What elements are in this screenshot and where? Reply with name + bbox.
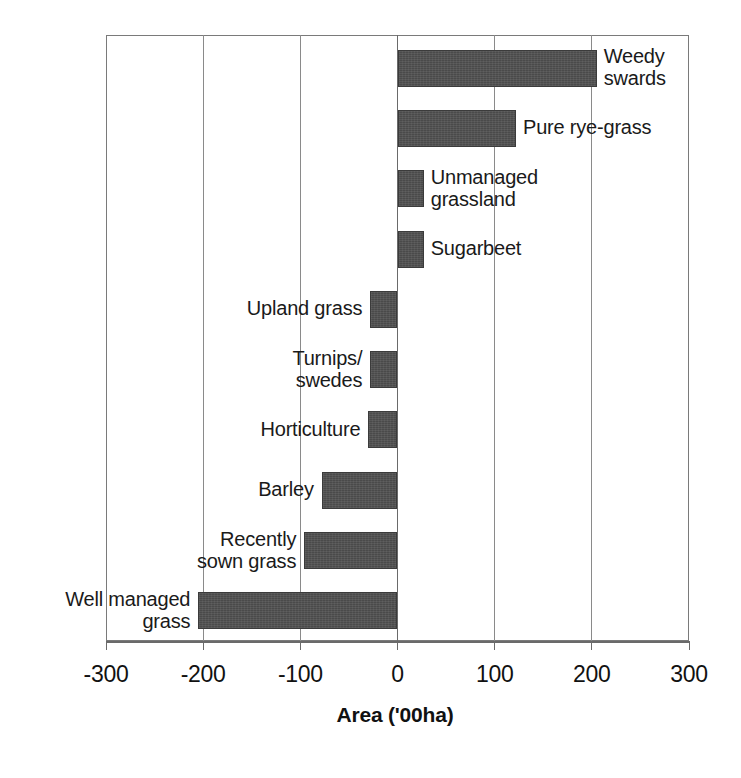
x-tick (397, 641, 398, 650)
bar (370, 351, 397, 388)
x-tick (300, 641, 301, 650)
bar-label: Upland grass (0, 297, 362, 319)
x-tick-label: 200 (547, 663, 637, 686)
x-tick-label: -300 (61, 663, 151, 686)
bar-label: Barley (0, 478, 314, 500)
bar-label: Weedy swards (604, 45, 741, 89)
x-axis-title: Area ('00ha) (195, 703, 595, 727)
bar-chart: Weedy swardsPure rye-grassUnmanaged gras… (0, 0, 741, 778)
bar-label: Pure rye-grass (523, 116, 741, 138)
bar-label: Unmanaged grassland (431, 166, 691, 210)
x-tick (494, 641, 495, 650)
bar-label: Horticulture (0, 418, 360, 440)
bar-label: Well managed grass (0, 588, 190, 632)
x-tick-label: -100 (255, 663, 345, 686)
bar (370, 291, 397, 328)
bar (398, 170, 424, 207)
x-tick-label: 300 (644, 663, 734, 686)
bar (398, 50, 597, 87)
x-tick-label: 100 (450, 663, 540, 686)
bar (398, 110, 517, 147)
bar (198, 592, 397, 629)
x-tick-label: 0 (353, 663, 443, 686)
bar (304, 532, 397, 569)
bar-label: Sugarbeet (431, 237, 691, 259)
gridline--100 (300, 35, 301, 641)
x-tick-label: -200 (158, 663, 248, 686)
bar (322, 472, 398, 509)
bar (398, 231, 424, 268)
bar (368, 411, 397, 448)
bar-label: Recently sown grass (0, 528, 296, 572)
x-tick (689, 641, 690, 650)
x-tick (203, 641, 204, 650)
x-tick (591, 641, 592, 650)
x-tick (106, 641, 107, 650)
bar-label: Turnips/ swedes (0, 347, 362, 391)
